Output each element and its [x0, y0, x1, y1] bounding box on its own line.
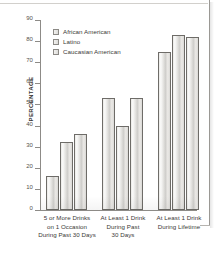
legend-label: Caucasian American [63, 48, 121, 55]
y-axis-tick-label: 0 [30, 205, 33, 211]
page-right-edge [209, 0, 210, 226]
y-axis-tick: 0 [35, 210, 40, 211]
legend-label: Latino [63, 38, 80, 45]
y-axis-tick-label: 70 [26, 57, 33, 63]
y-axis-tick-label: 50 [26, 99, 33, 105]
bar [60, 142, 73, 210]
y-axis-tick-label: 10 [26, 184, 33, 190]
bar [158, 52, 171, 210]
y-axis-tick-label: 90 [26, 15, 33, 21]
y-axis-tick-label: 40 [26, 121, 33, 127]
bar [116, 126, 129, 210]
y-axis-tick-label: 80 [26, 36, 33, 42]
legend-swatch-icon [53, 29, 59, 35]
legend-item: Latino [53, 37, 148, 46]
y-axis-tick-label: 20 [26, 163, 33, 169]
legend-label: African American [63, 28, 111, 35]
legend-swatch-icon [53, 39, 59, 45]
legend-item: African American [53, 27, 148, 36]
y-axis-tick-label: 30 [26, 142, 33, 148]
legend-swatch-icon [53, 49, 59, 55]
bar [172, 35, 185, 210]
x-axis-line [40, 210, 197, 211]
x-axis-category-label-line: During Lifetime [142, 223, 216, 232]
x-axis-category-label-line: At Least 1 Drink [142, 214, 216, 223]
page-edge-shadow [210, 2, 214, 228]
bar [74, 134, 87, 210]
bar-chart: PERCENTAGE 0102030405060708090 African A… [0, 0, 208, 254]
chart-legend: African AmericanLatinoCaucasian American [53, 27, 148, 57]
bar [102, 98, 115, 210]
x-axis-category-label: At Least 1 DrinkDuring Lifetime [142, 214, 216, 231]
bar [186, 37, 199, 210]
y-axis-tick-label: 60 [26, 78, 33, 84]
legend-item: Caucasian American [53, 47, 148, 56]
bar [46, 176, 59, 210]
x-axis-category-label-line: 30 Days [86, 231, 160, 240]
page-canvas: PERCENTAGE 0102030405060708090 African A… [0, 0, 222, 254]
bar [130, 98, 143, 210]
bar-group [158, 20, 203, 210]
